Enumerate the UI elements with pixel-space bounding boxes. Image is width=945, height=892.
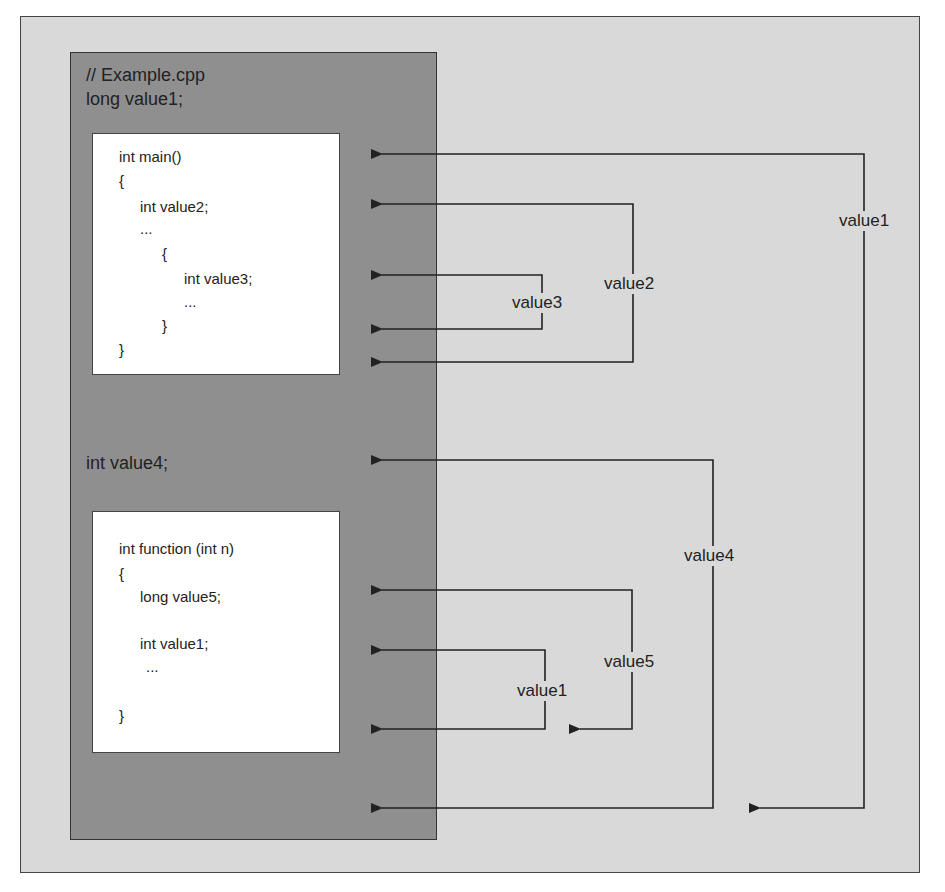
value1-global-scope-bracket — [382, 154, 864, 808]
label-value2: value2 — [603, 274, 655, 294]
label-value1-global: value1 — [838, 211, 890, 231]
value4-scope-bracket — [382, 460, 713, 808]
value2-scope-bracket — [382, 204, 633, 362]
label-value1-local: value1 — [516, 681, 568, 701]
scope-arrows — [0, 0, 945, 892]
label-value4: value4 — [683, 546, 735, 566]
label-value3: value3 — [511, 293, 563, 313]
label-value5: value5 — [603, 652, 655, 672]
value5-scope-bracket — [382, 590, 632, 729]
